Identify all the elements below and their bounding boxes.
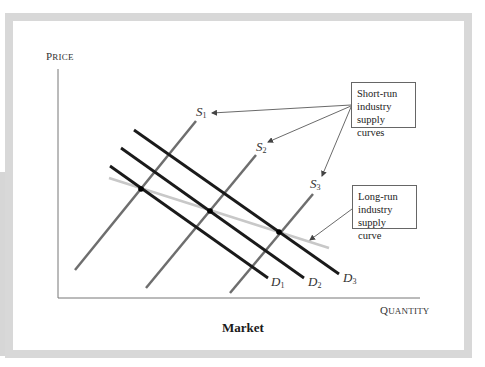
long-run-line-3: supply curve [358,216,411,242]
label-s1-sub: 1 [203,111,207,120]
demand-curve-d3 [134,130,339,274]
label-d3: D3 [343,270,356,286]
equilibrium-point-1 [138,186,144,192]
short-run-line-2: industry [357,100,410,113]
supply-curve-s2 [146,155,256,288]
equilibrium-point-3 [276,229,282,235]
short-run-line-1: Short-run [357,87,410,100]
x-axis-label: QUANTITY [380,304,430,316]
label-d1: D1 [271,274,284,290]
arrow-to-s1 [212,105,351,113]
label-s2: S2 [256,139,267,155]
label-d3-letter: D [343,270,352,285]
x-axis-label-initial: Q [380,304,388,316]
y-axis-label: PRICE [46,50,74,62]
long-run-callout: Long-run industry supply curve [352,185,417,229]
label-d2-letter: D [308,274,317,289]
arrow-to-s3 [322,107,351,176]
long-run-line-1: Long-run [358,190,411,203]
label-s1: S1 [196,104,207,120]
label-d2-sub: 2 [317,281,321,290]
label-s2-sub: 2 [263,146,267,155]
arrow-to-long-run [310,209,352,240]
demand-curve-d2 [121,148,304,278]
label-d3-sub: 3 [352,277,356,286]
x-axis-label-rest: UANTITY [388,306,429,316]
label-s3: S3 [310,176,321,192]
figure-caption: Market [222,320,264,336]
short-run-line-3: supply curves [357,113,410,139]
label-d2: D2 [308,274,321,290]
long-run-line-2: industry [358,203,411,216]
y-axis-label-rest: RICE [52,52,73,62]
label-s3-sub: 3 [317,183,321,192]
label-d1-sub: 1 [280,281,284,290]
short-run-callout: Short-run industry supply curves [351,82,416,128]
equilibrium-point-2 [207,208,213,214]
label-d1-letter: D [271,274,280,289]
